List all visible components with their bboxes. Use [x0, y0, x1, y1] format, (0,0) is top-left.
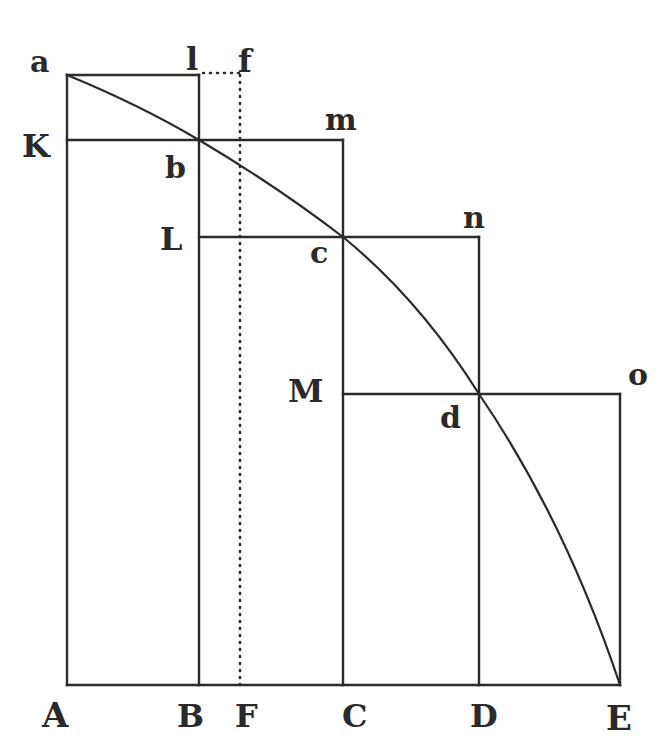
label-b: b: [165, 150, 186, 185]
label-c: c: [310, 235, 328, 270]
label-l: l: [186, 40, 198, 78]
label-o: o: [628, 357, 648, 392]
label-B: B: [177, 697, 204, 735]
label-E: E: [606, 698, 632, 738]
label-A: A: [41, 695, 69, 735]
label-a: a: [30, 44, 49, 79]
label-F: F: [235, 697, 258, 735]
label-d: d: [440, 400, 461, 435]
label-K: K: [22, 127, 51, 165]
label-n: n: [463, 200, 485, 235]
label-m: m: [325, 102, 357, 137]
label-L: L: [160, 220, 183, 258]
label-C: C: [342, 697, 367, 735]
diagram-canvas: a l f K b m L c n M d o A B F C D E: [0, 0, 672, 756]
label-M: M: [288, 372, 323, 410]
label-f: f: [238, 42, 254, 80]
label-D: D: [470, 697, 498, 735]
